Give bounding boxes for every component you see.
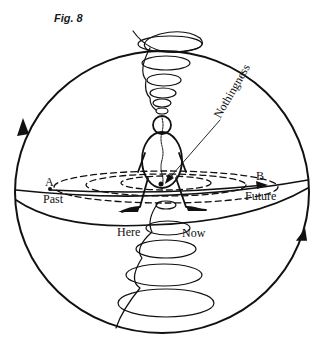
label-point-a: A xyxy=(45,176,54,188)
upper-spiral xyxy=(133,31,203,114)
label-now: Now xyxy=(182,227,205,239)
left-foot xyxy=(118,206,140,212)
diagram-figure: Fig. 8 A Past B Future Here Now Nothingn… xyxy=(0,0,323,347)
label-here: Here xyxy=(117,226,140,238)
figure-caption: Fig. 8 xyxy=(54,12,83,24)
lower-spiral xyxy=(116,201,214,328)
diagram-canvas xyxy=(0,0,323,347)
label-point-b: B xyxy=(256,170,264,182)
label-future: Future xyxy=(245,190,276,202)
label-past: Past xyxy=(43,193,63,205)
rotation-arrow-left xyxy=(17,118,29,136)
human-figure xyxy=(122,116,206,212)
figure-center-dot xyxy=(159,182,164,187)
right-foot xyxy=(186,206,206,211)
rotation-arrow-right xyxy=(296,227,309,243)
